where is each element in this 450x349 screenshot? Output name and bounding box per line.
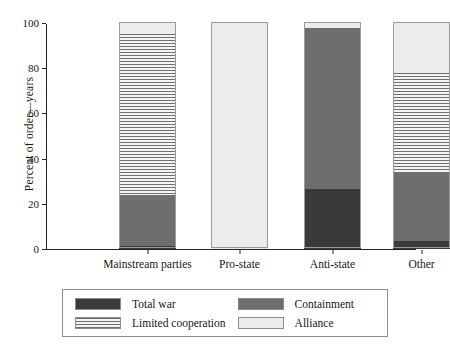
y-tick-mark <box>42 249 46 250</box>
legend-item-containment[interactable]: Containment <box>226 298 387 310</box>
legend-label: Containment <box>295 298 354 310</box>
bar-segment-alliance <box>393 23 450 73</box>
bar-segment-total_war <box>304 189 361 249</box>
bar-segment-total_war <box>393 241 450 249</box>
y-tick-label: 60 <box>28 107 39 119</box>
legend-grid: Total warContainmentLimited cooperationA… <box>63 290 387 336</box>
y-tick-label: 80 <box>28 62 39 74</box>
y-tick-label: 100 <box>23 17 40 29</box>
bar-segment-alliance <box>119 23 176 34</box>
chart-legend: Total warContainmentLimited cooperationA… <box>62 289 388 337</box>
y-axis-line <box>46 24 47 250</box>
bar-segment-containment <box>119 195 176 246</box>
x-tick-label: Pro-state <box>219 258 260 270</box>
x-tick-mark <box>239 250 240 254</box>
legend-label: Alliance <box>295 317 334 329</box>
x-tick-label: Other <box>408 258 434 270</box>
bar-other <box>393 23 450 249</box>
legend-swatch-containment-icon <box>238 298 284 310</box>
x-axis-line <box>46 249 416 250</box>
y-tick-mark <box>42 204 46 205</box>
legend-item-limited[interactable]: Limited cooperation <box>63 317 226 329</box>
bar-segment-containment <box>304 28 361 190</box>
y-tick-label: 20 <box>28 198 39 210</box>
bar-segment-alliance <box>304 23 361 28</box>
bar-segment-limited <box>119 34 176 194</box>
legend-swatch-alliance-icon <box>238 317 284 329</box>
bar-segment-containment <box>393 172 450 241</box>
bar-pro-state <box>211 23 268 249</box>
legend-item-alliance[interactable]: Alliance <box>226 317 387 329</box>
y-tick-mark <box>42 159 46 160</box>
bar-segment-limited <box>393 73 450 172</box>
y-tick-label: 0 <box>34 243 40 255</box>
bar-mainstream-parties <box>119 23 176 249</box>
x-tick-label: Anti-state <box>310 258 355 270</box>
x-tick-mark <box>332 250 333 254</box>
legend-label: Limited cooperation <box>132 317 226 329</box>
bar-segment-total_war <box>119 246 176 249</box>
bar-anti-state <box>304 23 361 249</box>
legend-swatch-limited-icon <box>75 317 121 329</box>
x-tick-mark <box>147 250 148 254</box>
bar-segment-alliance <box>211 23 268 249</box>
y-tick-mark <box>42 68 46 69</box>
y-tick-label: 40 <box>28 153 39 165</box>
x-tick-label: Mainstream parties <box>103 258 191 270</box>
y-tick-mark <box>42 23 46 24</box>
legend-label: Total war <box>132 298 176 310</box>
x-tick-mark <box>421 250 422 254</box>
plot-area: 020406080100 Mainstream partiesPro-state… <box>46 20 416 250</box>
legend-swatch-total-war-icon <box>75 298 121 310</box>
legend-item-total-war[interactable]: Total war <box>63 298 226 310</box>
y-tick-mark <box>42 113 46 114</box>
